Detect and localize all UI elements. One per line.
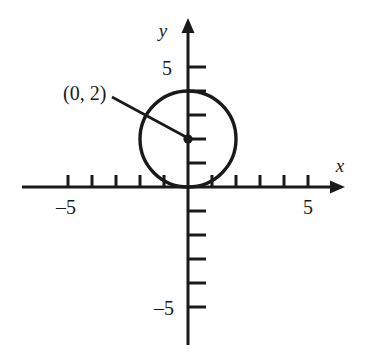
y-axis-tick-label-positive-5: 5 (162, 57, 172, 79)
x-axis-tick-label-positive-5: 5 (303, 196, 313, 218)
y-axis-ticks-positive (188, 67, 206, 163)
x-axis-ticks-negative (68, 175, 164, 187)
center-point-annotation-label: (0, 2) (63, 82, 106, 105)
coordinate-plane-figure: y x 5 –5 –5 5 (0, 2) (0, 0, 366, 353)
callout-leader-line (112, 97, 186, 137)
y-axis-ticks-negative (188, 211, 206, 307)
y-axis-label: y (157, 20, 168, 41)
y-axis-tick-label-negative-5: –5 (153, 297, 174, 319)
y-axis-arrowhead (182, 18, 195, 33)
x-axis-label: x (335, 155, 345, 176)
x-axis-ticks-positive (212, 175, 308, 187)
x-axis-tick-label-negative-5: –5 (55, 196, 76, 218)
x-axis-arrowhead (330, 181, 345, 194)
center-point-marker (183, 134, 192, 143)
